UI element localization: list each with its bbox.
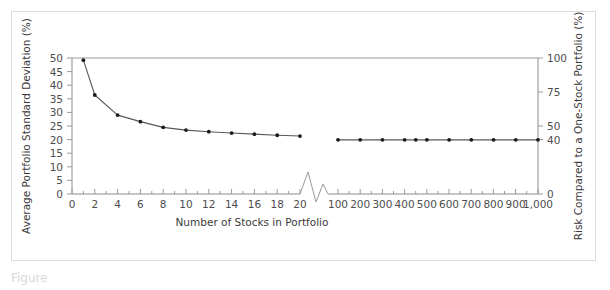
y2-tick-label: 75 <box>547 86 560 98</box>
right-y-axis-ticks <box>538 58 543 194</box>
data-point <box>253 132 257 136</box>
right-y-axis-tick-labels: 100 75 50 40 0 <box>547 52 567 200</box>
figure-caption-label: Figure <box>11 272 271 284</box>
data-point <box>514 138 518 142</box>
data-point <box>116 113 120 117</box>
data-point <box>298 134 302 138</box>
x-tick-label: 700 <box>461 198 481 210</box>
data-point <box>381 138 385 142</box>
x-tick-label: 8 <box>160 198 167 210</box>
figure-root: 50 45 40 35 30 25 20 15 10 5 0 Average P… <box>0 0 610 290</box>
data-point <box>425 138 429 142</box>
y-tick-label: 10 <box>50 161 63 173</box>
x-axis-tick-labels-left: 0 2 4 6 8 10 12 14 16 18 20 <box>69 198 307 210</box>
x-tick-label: 2 <box>91 198 98 210</box>
y-tick-label: 40 <box>50 79 63 91</box>
series-left <box>82 58 302 138</box>
y2-tick-label: 100 <box>547 52 567 64</box>
data-point <box>358 138 362 142</box>
x-tick-label: 200 <box>350 198 370 210</box>
y-tick-label: 5 <box>56 174 63 186</box>
y-tick-label: 45 <box>50 66 63 78</box>
data-point <box>230 131 234 135</box>
data-point <box>336 138 340 142</box>
data-point <box>275 133 279 137</box>
data-point <box>447 138 451 142</box>
figure-caption: Figure <box>11 272 271 290</box>
x-tick-label: 18 <box>271 198 284 210</box>
y2-tick-label: 40 <box>547 134 560 146</box>
x-tick-label: 14 <box>225 198 239 210</box>
data-point <box>184 128 188 132</box>
data-point <box>469 138 473 142</box>
data-point <box>207 130 211 134</box>
x-axis-tick-labels-right: 100 200 300 400 500 600 700 800 900 1,00… <box>328 198 553 210</box>
data-point <box>492 138 496 142</box>
y-tick-label: 30 <box>50 106 63 118</box>
left-y-axis-tick-labels: 50 45 40 35 30 25 20 15 10 5 0 <box>50 52 63 200</box>
data-point <box>403 138 407 142</box>
x-tick-label: 500 <box>417 198 437 210</box>
right-y-axis-title: Risk Compared to a One-Stock Portfolio (… <box>572 12 584 240</box>
x-tick-label: 4 <box>114 198 121 210</box>
left-y-axis-title: Average Portfolio Standard Deviation (%) <box>20 18 32 234</box>
y2-tick-label: 50 <box>547 120 560 132</box>
series-dots-left <box>82 58 302 138</box>
data-point <box>414 138 418 142</box>
y-tick-label: 25 <box>50 120 63 132</box>
x-tick-label: 1,000 <box>523 198 553 210</box>
y-tick-label: 0 <box>56 188 63 200</box>
x-tick-label: 6 <box>137 198 144 210</box>
data-point <box>139 120 143 124</box>
data-point <box>161 125 165 129</box>
x-tick-label: 20 <box>293 198 306 210</box>
x-tick-label: 0 <box>69 198 76 210</box>
x-tick-label: 800 <box>483 198 503 210</box>
y-tick-label: 15 <box>50 147 63 159</box>
left-y-axis-ticks <box>67 58 72 194</box>
x-tick-label: 300 <box>372 198 392 210</box>
chart-card: 50 45 40 35 30 25 20 15 10 5 0 Average P… <box>11 11 596 261</box>
y-tick-label: 35 <box>50 93 63 105</box>
x-tick-label: 16 <box>248 198 262 210</box>
x-axis-ticks-right <box>338 189 538 194</box>
x-tick-label: 12 <box>202 198 215 210</box>
x-axis-title: Number of Stocks in Portfolio <box>176 216 329 228</box>
data-point <box>536 138 540 142</box>
x-axis-ticks-left <box>72 189 300 194</box>
x-tick-label: 10 <box>179 198 192 210</box>
data-point <box>93 93 97 97</box>
series-line-left <box>83 60 300 136</box>
portfolio-risk-chart: 50 45 40 35 30 25 20 15 10 5 0 Average P… <box>12 12 597 262</box>
y-tick-label: 50 <box>50 52 63 64</box>
series-right <box>336 138 540 142</box>
x-tick-label: 100 <box>328 198 348 210</box>
x-tick-label: 600 <box>439 198 459 210</box>
y-tick-label: 20 <box>50 134 63 146</box>
x-tick-label: 400 <box>395 198 415 210</box>
data-point <box>82 58 86 62</box>
